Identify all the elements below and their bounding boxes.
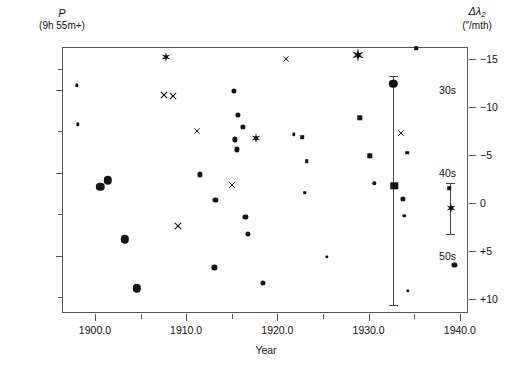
error-bar-stem xyxy=(393,76,394,305)
x-tick-minor xyxy=(414,314,415,319)
data-point-dot-large xyxy=(96,183,104,191)
left-axis-units: (9h 55m+) xyxy=(18,20,106,33)
data-point-dot-medium xyxy=(231,89,236,94)
x-tick-label: 1940.0 xyxy=(444,324,476,336)
data-point-cross xyxy=(193,127,201,135)
x-axis-label: Year xyxy=(63,344,469,356)
y-tick-label-right: +10 xyxy=(480,293,498,305)
y-tick-label-right: +5 xyxy=(480,245,492,257)
data-point-dot-small xyxy=(76,123,79,126)
right-axis-symbol-text: Δλ xyxy=(468,5,481,17)
data-point-cross xyxy=(160,90,169,99)
data-point-dot-large xyxy=(133,284,141,292)
y-tick-label-left: 30s xyxy=(439,84,456,96)
y-tick-label-left: 50s xyxy=(439,250,456,262)
y-tick-left-minor xyxy=(58,131,63,132)
data-point-cross xyxy=(169,92,178,101)
x-tick-label: 1910.0 xyxy=(170,324,202,336)
data-point-star xyxy=(446,203,457,214)
error-bar-cap-bottom xyxy=(389,305,398,306)
y-tick-left xyxy=(56,256,63,257)
data-point-square-small xyxy=(300,135,304,139)
data-point-star xyxy=(250,133,261,144)
right-axis-symbol: Δλ2 xyxy=(432,4,522,20)
data-point-square-medium xyxy=(357,115,362,120)
y-tick-left xyxy=(56,90,63,91)
y-tick-label-right: 0 xyxy=(480,197,486,209)
y-tick-right xyxy=(469,107,476,108)
y-tick-right xyxy=(469,299,476,300)
data-point-dot-large xyxy=(104,176,112,184)
x-tick xyxy=(95,314,96,321)
data-point-square-large xyxy=(390,182,397,189)
x-tick-minor xyxy=(232,314,233,319)
data-point-dot-medium xyxy=(212,265,217,270)
left-axis-symbol: P xyxy=(18,6,106,20)
data-point-dot-small xyxy=(372,182,375,185)
data-point-square-small xyxy=(305,159,309,163)
error-bar-cap-top xyxy=(446,183,455,184)
x-tick-minor xyxy=(141,314,142,319)
y-tick-left xyxy=(56,173,63,174)
right-axis-subscript: 2 xyxy=(481,10,485,19)
error-bar xyxy=(389,76,398,305)
x-tick xyxy=(277,314,278,321)
y-tick-label-right: −15 xyxy=(480,53,498,65)
data-point-square-small xyxy=(405,151,409,155)
y-tick-right xyxy=(469,59,476,60)
data-point-dot-small xyxy=(403,214,406,217)
data-point-dot-medium xyxy=(260,281,265,286)
error-bar-cap-top xyxy=(389,76,398,77)
x-tick-minor xyxy=(323,314,324,319)
data-point-dot-small xyxy=(325,255,328,258)
data-point-dot-small xyxy=(406,289,409,292)
y-tick-left-minor xyxy=(58,69,63,70)
data-point-square-medium xyxy=(367,153,372,158)
x-tick-label: 1930.0 xyxy=(353,324,385,336)
data-point-dot-small xyxy=(75,84,78,87)
x-tick xyxy=(369,314,370,321)
data-point-square-small xyxy=(303,191,307,195)
y-tick-label-left: 40s xyxy=(439,167,456,179)
data-point-dot-medium xyxy=(246,232,251,237)
y-tick-left-minor xyxy=(58,297,63,298)
x-tick xyxy=(186,314,187,321)
data-point-cross xyxy=(282,55,290,63)
data-point-dot-medium xyxy=(401,197,406,202)
y-tick-left-minor xyxy=(58,214,63,215)
data-point-dot-medium xyxy=(240,124,245,129)
data-point-cross xyxy=(228,181,236,189)
data-point-square-small xyxy=(447,187,451,191)
y-tick-label-right: −10 xyxy=(480,101,498,113)
x-tick-label: 1900.0 xyxy=(79,324,111,336)
data-point-dot-medium xyxy=(232,137,237,142)
y-tick-label-right: −5 xyxy=(480,149,492,161)
data-point-cross xyxy=(173,221,182,230)
figure-scatter-plot: P (9h 55m+) Δλ2 (″/mth) 30s40s50s−15−10−… xyxy=(0,0,525,374)
y-tick-right xyxy=(469,251,476,252)
error-bar-cap-bottom xyxy=(446,234,455,235)
right-axis-units: (″/mth) xyxy=(432,20,522,33)
data-point-dot-medium xyxy=(235,147,240,152)
data-point-dot-medium xyxy=(197,172,202,177)
data-point-dot-medium xyxy=(213,198,218,203)
data-point-star xyxy=(161,52,172,63)
x-tick xyxy=(460,314,461,321)
data-point-dot-medium xyxy=(243,214,248,219)
left-axis-label: P (9h 55m+) xyxy=(18,6,106,33)
data-point-cross xyxy=(398,129,406,137)
data-point-square-small xyxy=(414,46,418,50)
x-tick-label: 1920.0 xyxy=(261,324,293,336)
data-point-dot-medium xyxy=(236,112,241,117)
y-tick-right xyxy=(469,203,476,204)
plot-area: 30s40s50s−15−10−50+5+101900.01910.01920.… xyxy=(62,47,468,313)
data-point-star xyxy=(351,48,365,62)
right-axis-label: Δλ2 (″/mth) xyxy=(432,4,522,33)
data-point-dot-large xyxy=(121,235,129,243)
y-tick-right xyxy=(469,155,476,156)
data-point-dot-small xyxy=(292,133,295,136)
data-point-dot-medium xyxy=(452,262,457,267)
